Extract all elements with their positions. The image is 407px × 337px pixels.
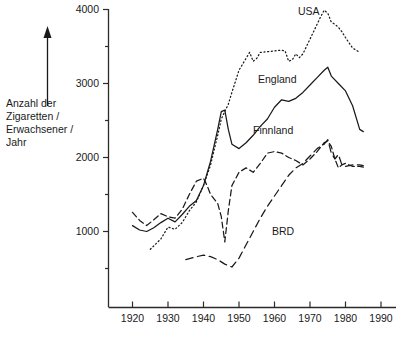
x-tick-label-1980: 1980 [334,312,358,324]
x-tick-label-1990: 1990 [369,312,393,324]
x-tick-label-1920: 1920 [121,312,145,324]
x-tick-label-1950: 1950 [227,312,251,324]
y-tick-label-1000: 1000 [76,225,100,237]
series-line-brd [186,140,363,267]
y-tick-label-3000: 3000 [76,77,100,89]
series-label-finnland: Finnland [253,124,293,136]
cigarette-consumption-chart: 4000 3000 2000 1000 1920 1930 1940 1950 … [0,0,407,337]
series-label-england: England [258,73,297,85]
series-labels-group: USA England Finnland BRD [253,5,320,237]
y-tick-label-2000: 2000 [76,151,100,163]
y-axis-title-line3: Erwachsener / [6,123,73,135]
series-line-finnland [133,141,364,242]
y-axis-arrow-head [44,26,52,38]
y-axis-title-group: Anzahl der Zigaretten / Erwachsener / Ja… [6,26,73,148]
y-axis-title-line1: Anzahl der [6,97,57,109]
x-axis: 1920 1930 1940 1950 1960 1970 1980 1990 [109,302,397,325]
x-tick-label-1970: 1970 [298,312,322,324]
x-tick-label-1930: 1930 [156,312,180,324]
series-label-usa: USA [298,5,320,17]
x-tick-label-1940: 1940 [192,312,216,324]
y-tick-label-4000: 4000 [76,3,100,15]
series-line-england [133,67,364,231]
x-tick-label-1960: 1960 [263,312,287,324]
y-axis: 4000 3000 2000 1000 [76,3,109,307]
series-label-brd: BRD [272,225,295,237]
y-axis-title-line4: Jahr [6,136,27,148]
data-series-group [133,10,364,267]
y-axis-title-line2: Zigaretten / [6,110,59,122]
